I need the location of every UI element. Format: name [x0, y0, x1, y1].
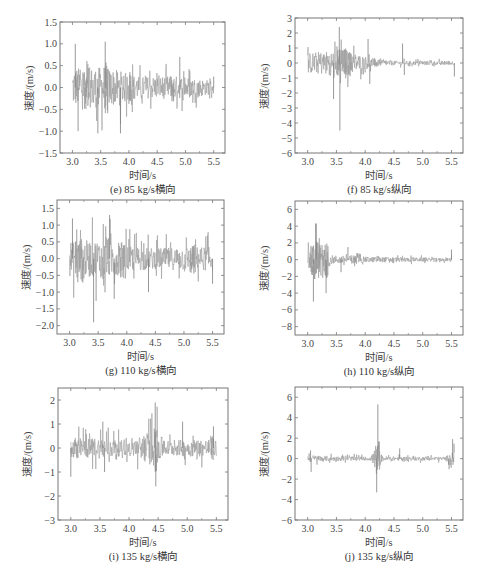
y-tick-label: 0	[287, 453, 292, 464]
x-tick-label: 5.5	[445, 523, 458, 534]
y-tick-label: 2	[287, 433, 292, 444]
x-axis-label: 时间/s	[365, 534, 392, 549]
plot-area: 3.03.54.04.55.05.5−6−4−20246	[0, 0, 479, 577]
x-tick-label: 3.5	[330, 523, 343, 534]
y-tick-label: −4	[281, 494, 292, 505]
velocity-trace	[308, 441, 455, 473]
x-tick-label: 3.0	[301, 523, 314, 534]
y-axis-label: 速度/(m/s)	[256, 431, 271, 476]
x-tick-label: 5.0	[416, 523, 429, 534]
y-tick-label: −6	[281, 515, 292, 526]
figure-caption: (j) 135 kg/s纵向	[345, 548, 413, 563]
x-tick-label: 4.5	[388, 523, 401, 534]
y-tick-label: −2	[281, 474, 292, 485]
y-tick-label: 4	[287, 412, 292, 423]
x-tick-label: 4.0	[359, 523, 372, 534]
y-tick-label: 6	[287, 392, 292, 403]
